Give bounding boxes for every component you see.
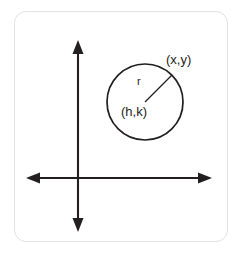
- x-axis-arrow-right-icon: [198, 173, 212, 184]
- y-axis: [73, 40, 84, 232]
- label-radius: r: [137, 75, 141, 87]
- label-point-on-circle: (x,y): [166, 52, 191, 67]
- figure-screenshot: (x,y) r (h,k): [0, 0, 240, 257]
- radius-segment: [145, 75, 172, 102]
- y-axis-arrow-down-icon: [73, 218, 84, 232]
- circle-equation-diagram: (x,y) r (h,k): [0, 0, 240, 257]
- y-axis-arrow-up-icon: [73, 40, 84, 54]
- x-axis-arrow-left-icon: [26, 173, 40, 184]
- label-center: (h,k): [121, 104, 147, 119]
- x-axis: [26, 173, 212, 184]
